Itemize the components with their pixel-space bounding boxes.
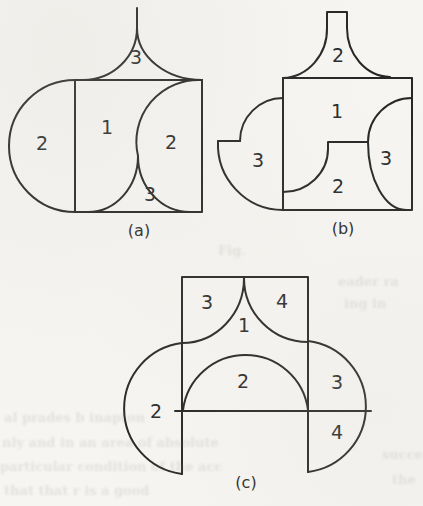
piece-number-label-b: 3 — [380, 147, 392, 169]
panel-b-inner-bulge-arc — [368, 98, 412, 142]
panel-c-right-circle — [308, 341, 366, 472]
panel-b-inner-step — [328, 142, 368, 149]
piece-number-label-c: 4 — [331, 421, 343, 443]
ghost-text-fragment: particular condition of the acc — [0, 459, 222, 474]
panel-b-vase-right-flare — [347, 28, 390, 77]
piece-number-label-a: 1 — [101, 116, 113, 138]
ghost-text-fragment: eader ra — [338, 274, 399, 289]
panel-b-vase-left-flare — [283, 28, 327, 78]
ghost-text-fragment: that that r is a good — [4, 483, 149, 498]
panel-caption-c: (c) — [235, 473, 256, 492]
piece-number-label-b: 2 — [332, 175, 344, 197]
ghost-text-fragment: al prades b inapton — [4, 410, 145, 425]
piece-number-label-a: 2 — [165, 131, 177, 153]
panel-caption-a: (a) — [128, 221, 150, 240]
dissection-diagrams-drawing — [0, 0, 423, 506]
piece-number-label-c: 3 — [201, 291, 213, 313]
ghost-text-fragment: the — [392, 472, 416, 487]
ghost-text-fragment: ing in — [344, 296, 386, 311]
piece-number-label-b: 2 — [332, 44, 344, 66]
piece-number-label-a: 2 — [36, 132, 48, 154]
panel-a-spire-right-flare — [137, 28, 202, 80]
panel-b-square-outline — [283, 78, 412, 210]
piece-number-label-a: 3 — [130, 46, 142, 68]
ghost-text-fragment: nly and in an area of absolute — [2, 435, 219, 450]
panel-b-vase-tab — [327, 12, 347, 28]
piece-number-label-b: 3 — [252, 149, 264, 171]
panel-b — [218, 12, 412, 210]
piece-number-label-c: 1 — [238, 314, 250, 336]
piece-number-label-c: 2 — [237, 370, 249, 392]
panel-a-inner-left-flare — [88, 156, 138, 212]
panel-b-left-piece-lower-arc — [218, 141, 283, 210]
piece-number-label-b: 1 — [331, 100, 343, 122]
scanned-figure-page: 32123(a)21332(b)3412234(c) Fig.eader rai… — [0, 0, 423, 506]
panel-caption-b: (b) — [332, 219, 355, 238]
panel-b-inner-left-arc — [283, 149, 328, 192]
panel-a-spire-left-flare — [83, 28, 137, 80]
panel-b-left-piece-shoulder-arc — [240, 98, 283, 141]
piece-number-label-c: 3 — [331, 371, 343, 393]
panel-a-square-outline — [75, 80, 202, 212]
panel-a — [9, 8, 202, 212]
piece-number-label-a: 3 — [144, 183, 156, 205]
piece-number-label-c: 4 — [276, 290, 288, 312]
ghost-text-fragment: Fig. — [218, 243, 246, 258]
ghost-text-fragment: succe — [382, 447, 423, 462]
piece-number-label-c: 2 — [150, 400, 162, 422]
